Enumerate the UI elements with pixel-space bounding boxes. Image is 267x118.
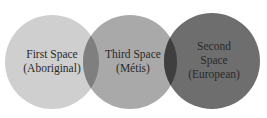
label-second-space-mid: Space	[200, 54, 227, 67]
label-second-space-sub: (European)	[188, 68, 240, 81]
label-third-space-sub: (Métis)	[116, 62, 150, 75]
label-third-space: Third Space	[105, 48, 161, 61]
venn-diagram: First Space (Aboriginal) Third Space (Mé…	[0, 0, 267, 118]
label-second-space: Second	[197, 40, 231, 52]
label-first-space: First Space	[26, 48, 77, 61]
label-first-space-sub: (Aboriginal)	[23, 62, 81, 75]
